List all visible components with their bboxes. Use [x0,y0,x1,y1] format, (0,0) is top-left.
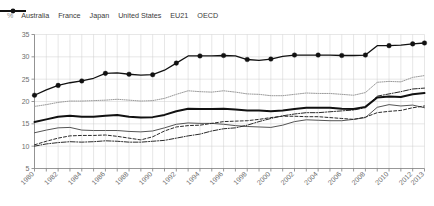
x-tick-label: 2000 [256,170,272,186]
series-eu21 [35,76,425,107]
x-tick-label: 1990 [137,170,153,186]
series-marker-france [422,41,427,46]
series-france [32,41,427,98]
x-tick-label: 1994 [185,170,201,186]
x-tick-label: 1980 [19,170,35,186]
series-line-eu21 [35,76,425,107]
y-tick-label: 10 [22,143,30,150]
chart-container: % AustraliaFranceJapanUnited StatesEU21O… [0,0,434,206]
x-tick-label: 1986 [90,170,106,186]
x-tick-label: 2013 [409,170,425,186]
series-marker-france [245,57,250,62]
x-tick-label: 1998 [232,170,248,186]
y-tick-label: 25 [22,76,30,83]
series-marker-france [387,43,392,48]
x-tick-label: 1996 [208,170,224,186]
x-tick-label: 2008 [350,170,366,186]
series-marker-france [127,72,132,77]
series-marker-france [410,42,415,47]
series-marker-france [221,53,226,58]
y-axis-tick-labels: 5101520253035 [22,31,30,172]
series-marker-france [79,79,84,84]
x-tick-label: 1988 [114,170,130,186]
series-line-france [35,43,425,95]
series-marker-france [339,53,344,58]
series-marker-france [269,57,274,62]
series-marker-france [150,72,155,77]
x-tick-label: 2010 [374,170,390,186]
series-marker-france [32,93,37,98]
x-tick-label: 1982 [43,170,59,186]
x-tick-label: 1984 [67,170,83,186]
series-layer [32,41,427,146]
y-tick-label: 15 [22,120,30,127]
y-tick-label: 20 [22,98,30,105]
x-tick-label: 1992 [161,170,177,186]
series-marker-france [56,83,61,88]
series-marker-france [103,71,108,76]
series-marker-france [363,53,368,58]
x-tick-label: 2006 [327,170,343,186]
x-tick-label: 2004 [303,170,319,186]
series-marker-france [316,53,321,58]
series-marker-france [174,61,179,66]
series-marker-france [198,54,203,59]
x-axis-tick-labels: 1980198219841986198819901992199419961998… [19,170,425,186]
chart-plot-area: 5101520253035 19801982198419861988199019… [0,0,434,206]
y-tick-label: 35 [22,31,30,38]
y-tick-label: 30 [22,53,30,60]
series-marker-france [292,53,297,58]
x-tick-label: 2002 [279,170,295,186]
